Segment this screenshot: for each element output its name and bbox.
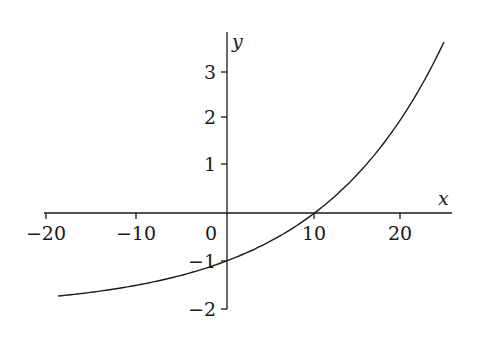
function-curve <box>58 42 444 296</box>
x-tick-label: 10 <box>302 222 326 244</box>
x-tick-label: 20 <box>388 222 412 244</box>
y-tick-label: −2 <box>188 298 216 320</box>
y-ticks <box>221 72 227 309</box>
x-tick-label: −20 <box>26 222 66 244</box>
y-tick-label: 2 <box>204 106 216 128</box>
y-axis-label: y <box>231 30 243 52</box>
x-tick-label: −10 <box>116 222 156 244</box>
y-tick-label: 3 <box>204 61 216 83</box>
x-ticks <box>46 213 400 219</box>
origin-label: 0 <box>205 222 217 244</box>
chart-canvas: −20 −10 0 10 20 3 2 1 −1 −2 y x <box>0 0 478 339</box>
x-axis-label: x <box>438 187 449 209</box>
y-tick-labels: 3 2 1 −1 −2 <box>188 61 216 320</box>
y-tick-label: 1 <box>204 153 216 175</box>
x-tick-labels: −20 −10 0 10 20 <box>26 222 412 244</box>
